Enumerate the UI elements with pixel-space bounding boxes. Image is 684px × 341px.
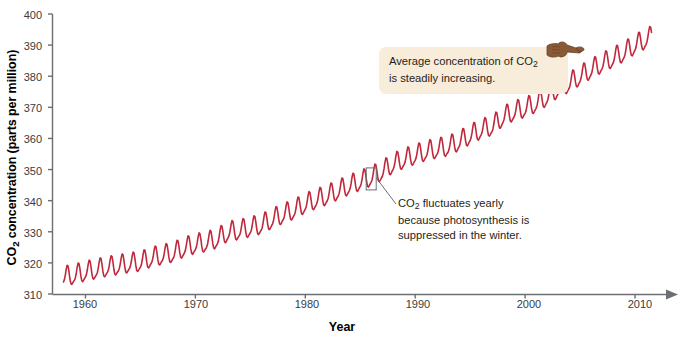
callout-yearly-fluctuation: CO2 fluctuates yearly because photosynth… — [398, 196, 558, 243]
pointing-hand-icon — [546, 36, 586, 70]
callout-leader-line — [376, 178, 396, 204]
callout2-line2: because photosynthesis is — [398, 214, 529, 226]
chart-figure: CO2 concentration (parts per million) 40… — [0, 0, 684, 341]
x-axis-arrow-icon — [666, 290, 678, 300]
callout2-line3: suppressed in the winter. — [398, 229, 522, 241]
callout2-line1-post: fluctuates yearly — [420, 197, 504, 209]
callout-average-increasing: Average concentration of CO2 is steadily… — [379, 47, 568, 94]
callout2-line1-pre: CO — [398, 197, 415, 209]
callout-line1-pre: Average concentration of CO — [389, 55, 533, 67]
callout-line1-subscript: 2 — [533, 59, 538, 69]
callout-line2: is steadily increasing. — [389, 72, 495, 84]
x-axis-title: Year — [0, 320, 684, 334]
